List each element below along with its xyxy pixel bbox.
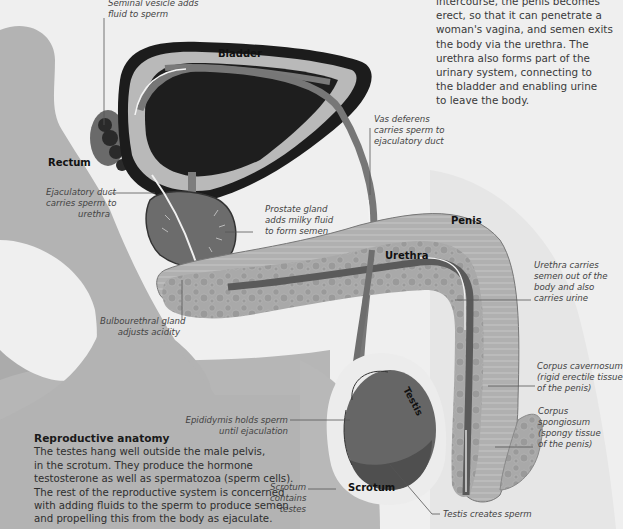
callout-prostate: Prostate gland adds milky fluid to form … [265,204,333,237]
label-penis: Penis [451,215,482,226]
callout-vas-deferens: Vas deferens carries sperm to ejaculator… [374,114,444,147]
callout-corpus-spongiosum: Corpus spongiosum (spongy tissue of the … [538,406,601,450]
callout-urethra: Urethra carries semen out of the body an… [534,260,608,304]
callout-line: carries urine [534,293,608,304]
callout-line: to form semen [265,226,333,237]
callout-line: body and also [534,282,608,293]
callout-line: adds milky fluid [265,215,333,226]
info-box-reproductive-anatomy: Reproductive anatomy The testes hang wel… [34,432,274,526]
callout-testis: Testis creates sperm [443,509,532,520]
intro-line: urinary system, connecting to [436,65,616,79]
callout-line: of the penis) [538,439,601,450]
callout-line: urethra [46,209,110,220]
info-box-line: in the scrotum. They produce the hormone [34,459,274,472]
callout-bulbourethral: Bulbourethral gland adjusts acidity [100,316,180,338]
callout-line: Seminal vesicle adds [108,0,198,9]
callout-line: ejaculatory duct [374,136,444,147]
callout-line: Ejaculatory duct [46,187,110,198]
callout-line: Vas deferens [374,114,444,125]
intro-line: the body via the urethra. The [436,37,616,51]
intro-line: to leave the body. [436,93,616,107]
intro-line: erect, so that it can penetrate a [436,8,616,22]
label-scrotum: Scrotum [348,482,395,493]
callout-line: carries sperm to [46,198,110,209]
callout-line: Corpus cavernosum [537,361,623,372]
info-box-line: with adding fluids to the sperm to produ… [34,499,274,512]
callout-line: (spongy tissue [538,428,601,439]
intro-line: urethra also forms part of the [436,51,616,65]
bladder [118,42,372,201]
callout-line: Bulbourethral gland [100,316,180,327]
callout-corpus-cavernosum: Corpus cavernosum (rigid erectile tissue… [537,361,623,394]
callout-seminal-vesicle: Seminal vesicle adds fluid to sperm [108,0,198,20]
callout-line: Prostate gland [265,204,333,215]
callout-line: spongiosum [538,417,601,428]
label-bladder: Bladder [218,48,262,59]
info-box-line: The testes hang well outside the male pe… [34,445,274,458]
intro-line: the bladder and enabling urine [436,79,616,93]
callout-line: carries sperm to [374,125,444,136]
callout-line: fluid to sperm [108,9,198,20]
intro-paragraph: intercourse, the penis becomes erect, so… [436,0,616,108]
callout-line: semen out of the [534,271,608,282]
callout-line: of the penis) [537,383,623,394]
info-box-line: The rest of the reproductive system is c… [34,486,274,499]
callout-line: Testis creates sperm [443,509,532,520]
label-urethra: Urethra [385,250,428,261]
callout-line: Urethra carries [534,260,608,271]
callout-line: (rigid erectile tissue [537,372,623,383]
info-box-line: testosterone as well as spermatozoa (spe… [34,472,274,485]
callout-line: Epididymis holds sperm [180,415,288,426]
info-box-line: and propelling this from the body as eja… [34,512,274,525]
label-rectum: Rectum [48,157,91,168]
callout-line: Corpus [538,406,601,417]
callout-ejaculatory-duct: Ejaculatory duct carries sperm to urethr… [46,187,110,220]
info-box-title: Reproductive anatomy [34,432,274,445]
intro-line: intercourse, the penis becomes [436,0,616,8]
callout-line: adjusts acidity [100,327,180,338]
intro-line: woman's vagina, and semen exits [436,22,616,36]
